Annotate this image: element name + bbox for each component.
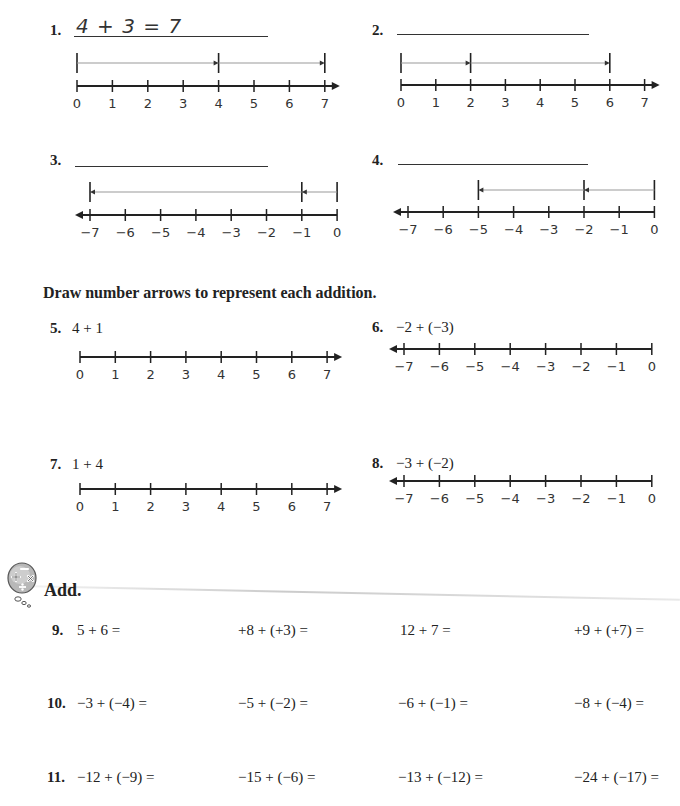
tick-label: −1 — [607, 491, 626, 506]
tick-label: −2 — [571, 491, 590, 506]
equation: −15 + (−6) = — [238, 769, 316, 786]
equation: 5 + 6 = — [77, 622, 120, 639]
math-operations-thought-bubble-icon — [4, 560, 44, 610]
tick-label: 0 — [648, 491, 656, 506]
equation: −5 + (−2) = — [238, 695, 308, 712]
equation: −13 + (−12) = — [398, 769, 483, 786]
equation: −24 + (−17) = — [574, 769, 659, 786]
equation: +9 + (+7) = — [574, 622, 644, 639]
add-section-title: Add. — [44, 580, 82, 601]
equation: −3 + (−4) = — [77, 695, 147, 712]
problem-9-number: 9. — [52, 622, 63, 639]
axis-arrowhead-left — [389, 477, 397, 485]
equation: −6 + (−1) = — [398, 695, 468, 712]
problem-10-number: 10. — [47, 695, 66, 712]
tick-label: −4 — [501, 491, 520, 506]
problem-11-number: 11. — [47, 769, 65, 786]
section-divider — [20, 585, 680, 601]
problem-8-number-line[interactable]: −7−6−5−4−3−2−10 — [0, 0, 680, 540]
tick-label: −7 — [394, 491, 413, 506]
tick-label: −5 — [465, 491, 484, 506]
tick-label: −3 — [536, 491, 555, 506]
equation: +8 + (+3) = — [238, 622, 308, 639]
equation: −8 + (−4) = — [574, 695, 644, 712]
equation: −12 + (−9) = — [77, 769, 155, 786]
tick-label: −6 — [430, 491, 449, 506]
equation: 12 + 7 = — [400, 622, 451, 639]
